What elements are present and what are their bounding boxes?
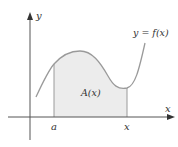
x-axis-label: x — [165, 103, 171, 114]
marker-label-a: a — [51, 121, 57, 132]
curve-label: y = f(x) — [132, 27, 169, 38]
shaded-area-region — [54, 51, 127, 117]
area-label: A(x) — [80, 87, 101, 98]
area-function-diagram: y x y = f(x) A(x) a x — [0, 0, 178, 147]
marker-label-x: x — [124, 121, 130, 132]
y-axis-arrow-icon — [27, 12, 33, 20]
y-axis-label: y — [35, 10, 42, 21]
x-axis-arrow-icon — [167, 114, 175, 120]
